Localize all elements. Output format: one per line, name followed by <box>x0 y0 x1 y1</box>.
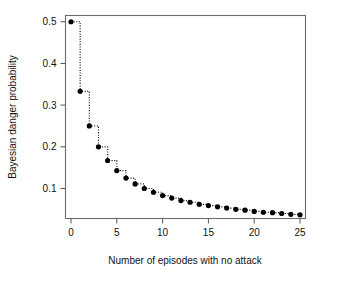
data-point <box>279 211 284 216</box>
data-point <box>215 204 220 209</box>
data-point <box>87 123 92 128</box>
y-tick-label: 0.1 <box>43 183 57 194</box>
y-tick-label: 0.5 <box>43 16 57 27</box>
data-point <box>68 19 73 24</box>
x-tick-label: 20 <box>249 227 261 238</box>
data-point <box>123 175 128 180</box>
data-point <box>151 190 156 195</box>
data-point <box>96 144 101 149</box>
y-tick-label: 0.4 <box>43 58 57 69</box>
chart-figure: 0.10.20.30.40.5 0510152025 Number of epi… <box>0 0 339 282</box>
data-point <box>242 208 247 213</box>
data-point <box>297 212 302 217</box>
data-point <box>270 210 275 215</box>
data-point <box>233 207 238 212</box>
data-point <box>224 205 229 210</box>
data-point <box>160 193 165 198</box>
y-axis-title: Bayesian danger probability <box>7 55 18 178</box>
data-point <box>261 210 266 215</box>
data-point <box>142 186 147 191</box>
data-point <box>187 200 192 205</box>
x-tick-label: 25 <box>294 227 306 238</box>
chart-svg: 0.10.20.30.40.5 0510152025 Number of epi… <box>0 0 339 282</box>
x-axis-title: Number of episodes with no attack <box>108 255 262 266</box>
data-point <box>252 209 257 214</box>
y-tick-label: 0.3 <box>43 100 57 111</box>
y-tick-label: 0.2 <box>43 141 57 152</box>
data-point <box>288 212 293 217</box>
x-tick-label: 10 <box>157 227 169 238</box>
data-point <box>133 181 138 186</box>
x-tick-label: 15 <box>203 227 215 238</box>
data-point <box>197 202 202 207</box>
data-point <box>178 198 183 203</box>
data-point <box>105 158 110 163</box>
x-tick-label: 5 <box>114 227 120 238</box>
data-point <box>169 195 174 200</box>
data-point <box>78 89 83 94</box>
x-tick-label: 0 <box>68 227 74 238</box>
data-point <box>114 168 119 173</box>
data-point <box>206 203 211 208</box>
